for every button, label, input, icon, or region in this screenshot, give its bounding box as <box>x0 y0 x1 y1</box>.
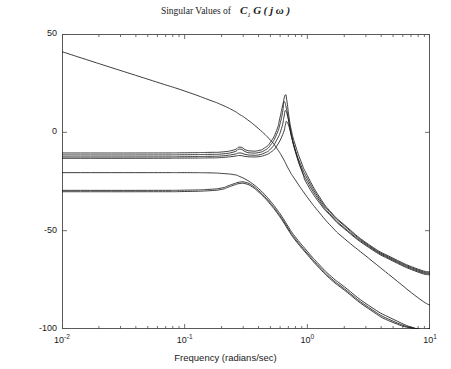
x-tick-label: 100 <box>287 333 327 345</box>
x-tick-base: 10 <box>423 335 433 345</box>
x-tick-label: 10-2 <box>42 333 82 345</box>
chart-svg <box>62 34 430 329</box>
chart-title: Singular Values ofC1 G ( j ω ) <box>0 4 451 19</box>
axis-ticks <box>62 34 430 329</box>
y-tick-label: 0 <box>23 126 57 136</box>
x-tick-base: 10 <box>301 335 311 345</box>
chart-title-prefix: Singular Values of <box>161 6 231 16</box>
data-curves <box>62 52 430 329</box>
x-tick-label: 10-1 <box>165 333 205 345</box>
chart-title-symbol-c-sub: 1 <box>247 11 251 19</box>
x-tick-exponent: -2 <box>64 333 70 340</box>
figure-root: Singular Values ofC1 G ( j ω ) Magnitude… <box>0 0 451 369</box>
y-tick-label: 50 <box>23 28 57 38</box>
plot-area <box>62 34 430 329</box>
x-axis-title: Frequency (radians/sec) <box>0 352 451 363</box>
chart-title-symbol-arg: ( j ω ) <box>263 4 290 16</box>
x-tick-exponent: 1 <box>433 333 437 340</box>
x-tick-base: 10 <box>54 335 64 345</box>
y-tick-label: -50 <box>23 225 57 235</box>
x-tick-label: 101 <box>410 333 450 345</box>
chart-title-symbol-g: G <box>253 4 261 16</box>
axis-frame <box>63 35 430 329</box>
x-tick-base: 10 <box>177 335 187 345</box>
x-tick-exponent: 0 <box>311 333 315 340</box>
y-tick-label: -100 <box>23 323 57 333</box>
x-tick-exponent: -1 <box>187 333 193 340</box>
